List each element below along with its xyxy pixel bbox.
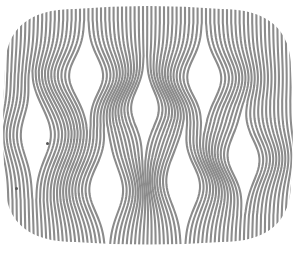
- stripe: [10, 0, 21, 251]
- stripe: [294, 0, 297, 251]
- stripe-field: [0, 0, 297, 251]
- ink-dot: [46, 142, 49, 145]
- stripe: [17, 0, 30, 251]
- stripe: [21, 0, 34, 251]
- stripe: [290, 0, 295, 251]
- ink-dot: [15, 187, 18, 190]
- op-art-stripes: [0, 0, 297, 253]
- stripe: [13, 0, 25, 251]
